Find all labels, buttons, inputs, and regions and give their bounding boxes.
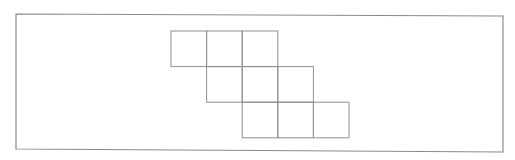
grid-cell [278,102,314,138]
grid-cell [242,31,278,67]
square-grid-net [171,31,349,138]
grid-cell [242,67,278,103]
grid-cell [242,102,278,138]
grid-cell [171,31,207,67]
grid-cell [207,31,243,67]
diagram-frame [16,14,503,152]
diagram-canvas [0,0,515,160]
grid-cell [207,67,243,103]
grid-cell [313,102,349,138]
grid-cell [278,67,314,103]
